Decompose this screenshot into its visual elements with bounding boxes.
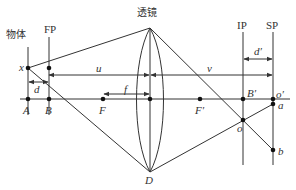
point-A bbox=[26, 97, 31, 102]
x-label: x bbox=[19, 62, 24, 73]
a-label: a bbox=[278, 100, 284, 111]
point-o-prime bbox=[271, 97, 276, 102]
point-fp bbox=[47, 66, 52, 71]
point-lens-center bbox=[148, 97, 153, 102]
point-B bbox=[47, 97, 52, 102]
ip-label: IP bbox=[237, 20, 247, 31]
ray-x-to-lens-bottom bbox=[28, 68, 150, 172]
ray-D-to-a bbox=[150, 104, 273, 172]
u-label: u bbox=[96, 63, 102, 74]
point-a bbox=[271, 102, 276, 107]
v-label: v bbox=[207, 63, 212, 74]
point-B-prime bbox=[241, 97, 246, 102]
F-prime-label: F′ bbox=[195, 105, 204, 116]
A-label: A bbox=[23, 105, 30, 116]
point-F bbox=[101, 97, 106, 102]
sp-label: SP bbox=[266, 20, 278, 31]
o-label: o bbox=[237, 123, 243, 134]
fp-label: FP bbox=[44, 24, 56, 35]
d-label: d bbox=[34, 84, 40, 95]
b-label: b bbox=[278, 146, 284, 157]
F-label: F bbox=[99, 105, 106, 116]
d-prime-label: d′ bbox=[254, 46, 262, 57]
lens-label: 透镜 bbox=[137, 8, 157, 18]
B-label: B bbox=[45, 105, 52, 116]
D-label: D bbox=[145, 175, 153, 186]
object-label: 物体 bbox=[6, 30, 26, 40]
point-x bbox=[26, 66, 31, 71]
point-F-prime bbox=[198, 97, 203, 102]
f-label: f bbox=[124, 84, 127, 95]
B-prime-label: B′ bbox=[247, 88, 256, 99]
point-b bbox=[271, 148, 276, 153]
